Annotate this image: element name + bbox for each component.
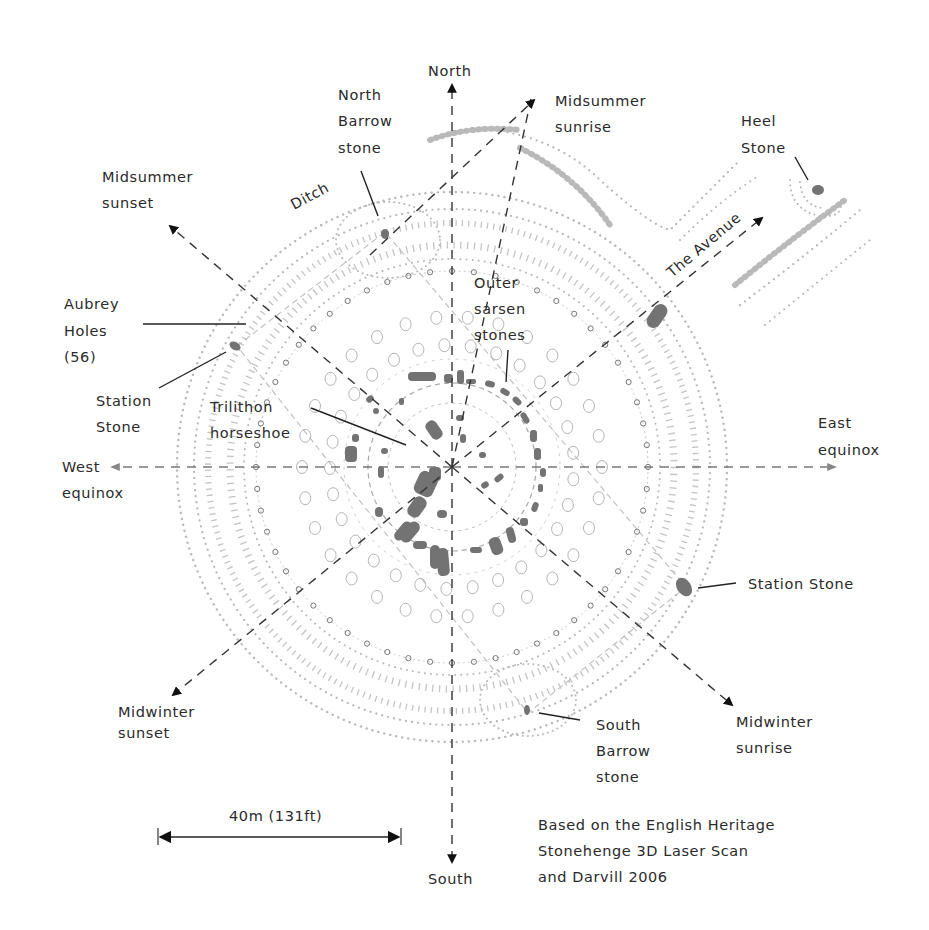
y-z-hole [593, 429, 604, 442]
label-midsummer-sunrise-1: Midsummer [555, 93, 646, 109]
y-z-hole [328, 488, 339, 501]
y-z-hole [547, 572, 558, 585]
y-z-hole [584, 400, 595, 413]
label-south-barrow-3: stone [596, 769, 639, 785]
y-z-hole [346, 349, 357, 362]
label-midsummer-sunset-2: sunset [102, 195, 154, 211]
y-z-hole [367, 368, 378, 381]
aubrey-hole [588, 326, 593, 331]
aubrey-hole [273, 549, 278, 554]
aubrey-hole [385, 649, 390, 654]
label-trilithon-1: Trilithon [209, 399, 273, 415]
y-z-hole [368, 554, 379, 567]
y-z-hole [350, 535, 361, 548]
aubrey-hole [615, 569, 620, 574]
label-avenue: The Avenue [663, 209, 744, 281]
y-z-hole [522, 590, 533, 603]
aubrey-hole [345, 630, 350, 635]
y-z-hole [439, 339, 450, 352]
y-z-hole [491, 347, 502, 360]
y-z-hole [593, 492, 604, 505]
label-west: West [62, 459, 100, 475]
stones [228, 185, 824, 715]
label-north-barrow-2: Barrow [338, 113, 393, 129]
label-south-barrow-2: Barrow [596, 743, 651, 759]
y-z-hole [568, 446, 579, 459]
y-z-hole [349, 388, 360, 401]
y-z-hole [372, 331, 383, 344]
midwinter-sunset-axis [173, 467, 452, 695]
stonehenge-plan: North South East equinox West equinox Mi… [0, 0, 929, 930]
label-north-barrow-3: stone [338, 140, 381, 156]
aubrey-hole [554, 630, 559, 635]
label-aubrey-3: (56) [64, 349, 96, 365]
label-midsummer-sunrise-2: sunrise [555, 119, 612, 135]
y-z-hole [462, 311, 473, 324]
aubrey-hole [554, 298, 559, 303]
avenue-banks [430, 129, 870, 325]
y-z-hole [346, 572, 357, 585]
y-z-hole [400, 318, 411, 331]
aubrey-hole [264, 529, 269, 534]
y-z-hole [568, 473, 579, 486]
y-z-hole [568, 372, 579, 385]
label-east: East [818, 415, 852, 431]
north-barrow-ring [336, 202, 440, 278]
aubrey-hole [385, 279, 390, 284]
y-z-hole [431, 311, 442, 324]
y-z-hole [325, 372, 336, 385]
label-south: South [428, 871, 473, 887]
label-outer-sarsen-2: sarsen [474, 301, 526, 317]
y-z-hole [551, 397, 562, 410]
label-midwinter-sunrise-2: sunrise [736, 740, 793, 756]
label-midwinter-sunset-2: sunset [118, 725, 170, 741]
label-heel-1: Heel [741, 113, 776, 129]
south-barrow-ring [480, 664, 576, 736]
y-z-hole [493, 603, 504, 616]
aubrey-hole [273, 379, 278, 384]
heel-stone [812, 185, 824, 195]
y-z-hole [441, 582, 452, 595]
label-station-east: Station Stone [748, 576, 854, 592]
y-z-hole [400, 603, 411, 616]
label-north: North [428, 63, 472, 79]
y-z-hole [514, 359, 525, 372]
aubrey-hole [311, 326, 316, 331]
y-z-hole [389, 353, 400, 366]
y-z-hole [300, 492, 311, 505]
y-z-hole [562, 421, 573, 434]
aubrey-hole [296, 342, 301, 347]
y-z-hole [552, 523, 563, 536]
credit-text: Based on the English Heritage Stonehenge… [538, 817, 775, 885]
y-z-hole [467, 581, 478, 594]
scale-bar-label: 40m (131ft) [229, 808, 322, 824]
aubrey-hole [534, 641, 539, 646]
aubrey-hole [626, 549, 631, 554]
y-z-hole [493, 574, 504, 587]
label-midwinter-sunset-1: Midwinter [118, 704, 195, 720]
label-trilithon-2: horseshoe [210, 425, 290, 441]
y-z-hole [516, 561, 527, 574]
label-station-west-2: Stone [96, 419, 141, 435]
scale-bar: 40m (131ft) [158, 808, 401, 845]
label-aubrey-2: Holes [64, 323, 107, 339]
y-z-hole [336, 513, 347, 526]
aubrey-hole [626, 379, 631, 384]
label-outer-sarsen-3: stones [474, 327, 525, 343]
credit-line-3: and Darvill 2006 [538, 869, 668, 885]
aubrey-hole [327, 618, 332, 623]
aubrey-hole [588, 603, 593, 608]
y-z-hole [310, 522, 321, 535]
label-aubrey-1: Aubrey [64, 296, 119, 312]
south-barrow-stone [524, 705, 530, 715]
label-outer-sarsen-1: Outer [474, 275, 518, 291]
y-z-hole [327, 435, 338, 448]
y-z-hole [390, 569, 401, 582]
label-ditch: Ditch [288, 179, 332, 212]
label-midsummer-sunset-1: Midsummer [102, 169, 193, 185]
label-midwinter-sunrise-1: Midwinter [736, 714, 813, 730]
y-z-hole [300, 429, 311, 442]
credit-line-2: Stonehenge 3D Laser Scan [538, 843, 749, 859]
y-z-hole [584, 522, 595, 535]
y-z-hole [534, 376, 545, 389]
